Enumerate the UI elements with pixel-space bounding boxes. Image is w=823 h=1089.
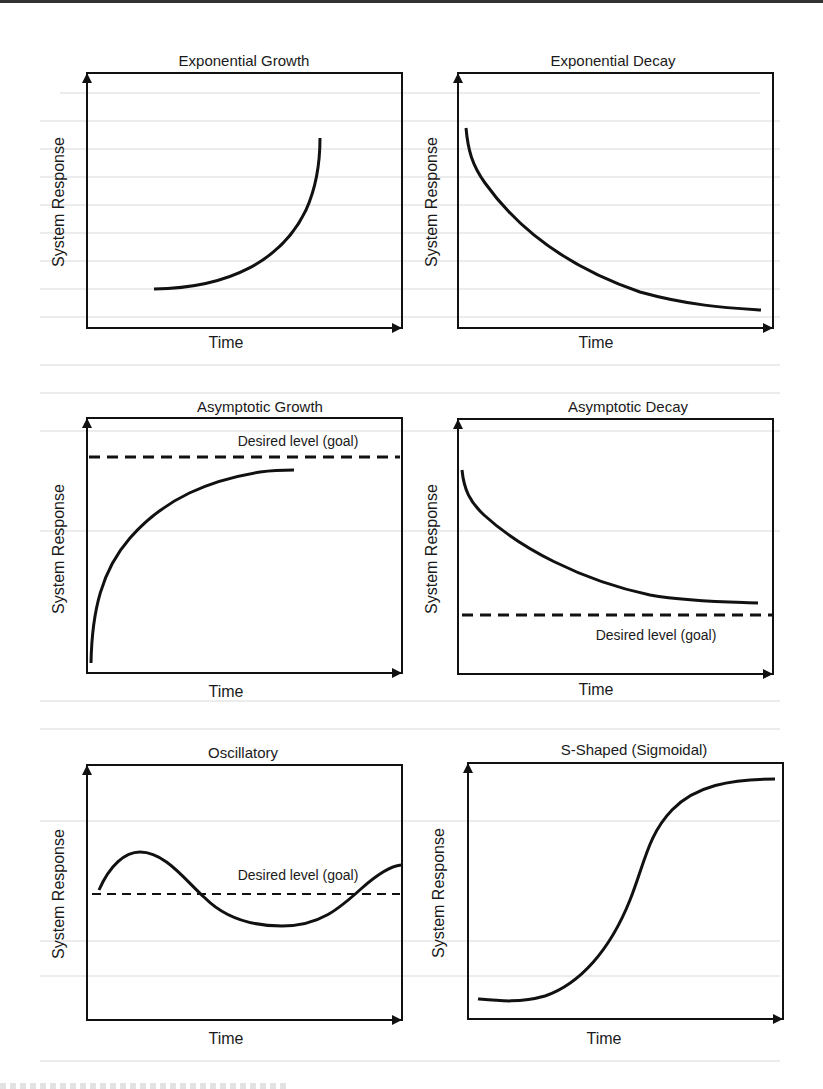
panel-title: Exponential Decay <box>550 52 676 69</box>
panel-asymptotic-growth: Asymptotic Growth Desired level (goal) T… <box>50 398 402 700</box>
y-axis-label: System Response <box>423 484 440 614</box>
behavior-patterns-figure: Exponential Growth Time System Response … <box>0 0 823 1089</box>
panel-exponential-decay: Exponential Decay Time System Response <box>423 52 773 351</box>
panel-title: Oscillatory <box>208 744 279 761</box>
x-axis-label: Time <box>579 681 614 698</box>
x-axis-label: Time <box>209 683 244 700</box>
plot-frame <box>458 73 773 328</box>
x-axis-label: Time <box>209 1030 244 1047</box>
panel-s-shaped: S-Shaped (Sigmoidal) Time System Respons… <box>430 741 783 1047</box>
goal-label: Desired level (goal) <box>238 867 359 883</box>
panel-title: Asymptotic Decay <box>568 398 689 415</box>
y-axis-label: System Response <box>430 828 447 958</box>
panel-title: S-Shaped (Sigmoidal) <box>561 741 708 758</box>
x-axis-label: Time <box>209 334 244 351</box>
growth-curve <box>154 138 320 289</box>
decay-curve <box>466 128 761 310</box>
x-axis-label: Time <box>579 334 614 351</box>
goal-label: Desired level (goal) <box>238 433 359 449</box>
panel-oscillatory: Oscillatory Desired level (goal) Time Sy… <box>50 744 402 1047</box>
panel-title: Exponential Growth <box>179 52 310 69</box>
x-axis-label: Time <box>587 1030 622 1047</box>
y-axis-label: System Response <box>50 484 67 614</box>
panel-title: Asymptotic Growth <box>197 398 323 415</box>
goal-label: Desired level (goal) <box>596 627 717 643</box>
asymptotic-decay-curve <box>462 470 758 603</box>
plot-frame <box>468 763 783 1019</box>
y-axis-label: System Response <box>50 137 67 267</box>
cut-off-caption <box>0 1083 290 1089</box>
y-axis-label: System Response <box>50 829 67 959</box>
asymptotic-growth-curve <box>91 470 294 663</box>
oscillatory-curve <box>99 852 401 926</box>
panel-exponential-growth: Exponential Growth Time System Response <box>50 52 402 351</box>
panel-asymptotic-decay: Asymptotic Decay Desired level (goal) Ti… <box>423 398 773 698</box>
plot-frame <box>87 73 402 328</box>
sigmoid-curve <box>478 779 775 1001</box>
y-axis-label: System Response <box>423 137 440 267</box>
